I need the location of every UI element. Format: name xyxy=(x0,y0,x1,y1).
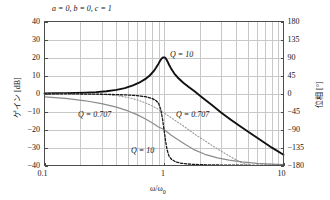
annotation-0: Q = 10 xyxy=(170,50,193,59)
y-tick-label-right: 90 xyxy=(288,53,296,62)
y-tick-label-left: −40 xyxy=(0,161,40,170)
x-tick-label: 10 xyxy=(278,169,286,178)
y-tick-label-left: −30 xyxy=(0,143,40,152)
y-tick-label-left: −20 xyxy=(0,125,40,134)
y-tick-label-right: −135 xyxy=(288,143,305,152)
chart-title: a = 0, b = 0, c = 1 xyxy=(52,4,112,13)
y-tick-label-right: −45 xyxy=(288,107,301,116)
annotation-1: Q = 0.707 xyxy=(78,110,111,119)
bode-plot-figure: a = 0, b = 0, c = 1403020100−10−20−30−40… xyxy=(0,0,330,200)
y-tick-label-left: 40 xyxy=(0,17,40,26)
x-tick-label: 1 xyxy=(161,169,165,178)
x-axis-title: ω/ω0 xyxy=(150,184,166,195)
y-axis-title-right: 位相 [°] xyxy=(313,81,324,108)
y-tick-label-left: 20 xyxy=(0,53,40,62)
annotation-3: Q = 10 xyxy=(131,146,154,155)
annotation-2: Q = 0.707 xyxy=(176,110,209,119)
y-tick-label-right: 135 xyxy=(288,35,300,44)
y-tick-label-right: −90 xyxy=(288,125,301,134)
y-tick-label-right: 180 xyxy=(288,17,300,26)
y-tick-label-right: −180 xyxy=(288,161,305,170)
x-tick-label: 0.1 xyxy=(38,169,48,178)
y-tick-label-right: 45 xyxy=(288,71,296,80)
y-tick-label-right: 0 xyxy=(288,89,292,98)
y-tick-label-left: 30 xyxy=(0,35,40,44)
y-axis-title-left: ゲイン [dB] xyxy=(11,77,22,118)
